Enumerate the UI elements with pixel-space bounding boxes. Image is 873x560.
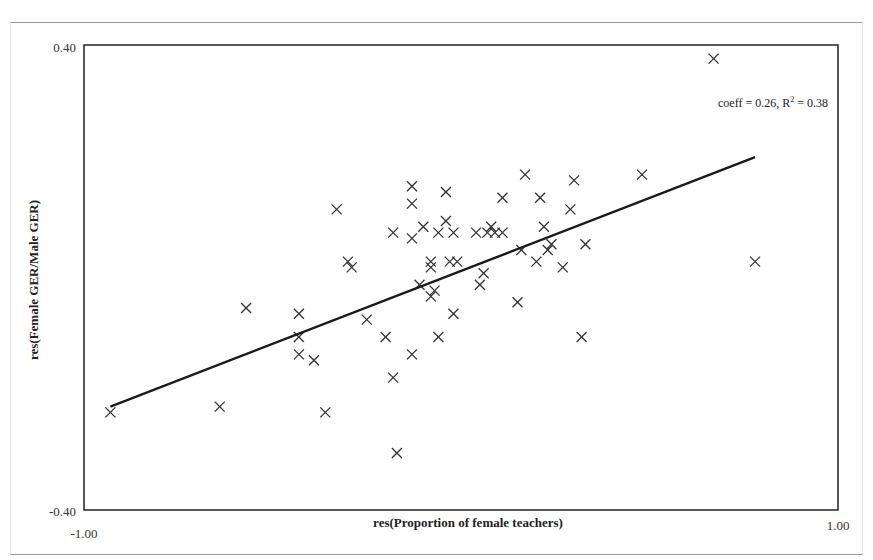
x-tick-right: 1.00 bbox=[827, 518, 850, 533]
annotation-prefix: coeff = 0.26, R bbox=[718, 96, 790, 110]
regression-annotation: coeff = 0.26, R2 = 0.38 bbox=[718, 95, 828, 110]
y-tick-bottom: -0.40 bbox=[49, 504, 76, 519]
plot-area bbox=[84, 45, 838, 510]
scatter-chart: 0.40 -0.40 -1.00 1.00 res(Proportion of … bbox=[0, 0, 873, 560]
x-axis-label: res(Proportion of female teachers) bbox=[373, 515, 563, 530]
x-tick-left: -1.00 bbox=[70, 526, 97, 541]
annotation-suffix: = 0.38 bbox=[794, 96, 828, 110]
y-tick-top: 0.40 bbox=[53, 40, 76, 55]
y-axis-label: res(Female GER/Male GER) bbox=[26, 200, 41, 360]
